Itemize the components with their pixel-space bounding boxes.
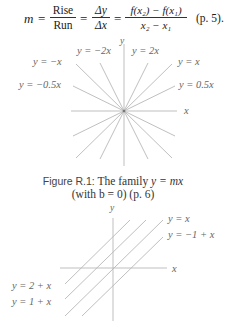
figure-number: Figure R.1: (43, 175, 95, 187)
x-axis-label: x (184, 105, 189, 116)
x-axis-label-2: x (172, 263, 177, 274)
label-y-x-2: y = x (168, 213, 190, 224)
label-y-neg-0.5x: y = −0.5x (19, 79, 61, 90)
line-y-neg1-plus-x (82, 237, 163, 316)
label-y-2x: y = 2x (132, 45, 159, 56)
label-y-neg-x: y = −x (33, 56, 62, 67)
y-axis-label-2: y (110, 203, 114, 214)
label-y-2-plus-x: y = 2 + x (12, 280, 51, 291)
origin-point (123, 110, 126, 113)
label-y-neg1-plus-x: y = −1 + x (168, 229, 214, 240)
y-axis-label: y (120, 36, 124, 47)
line-y-2-plus-x (65, 220, 130, 284)
label-y-neg-2x: y = −2x (77, 45, 111, 56)
figure-r1-caption-line2: (with b = 0) (p. 6) (13, 188, 213, 201)
label-y-0.5x: y = 0.5x (179, 79, 214, 90)
line-y-1-plus-x (65, 220, 146, 299)
label-y-x: y = x (178, 56, 200, 67)
caption-text: The family (95, 175, 151, 187)
label-y-1-plus-x: y = 1 + x (12, 296, 51, 307)
caption-math: y = mx (151, 175, 183, 187)
figure-r1-caption: Figure R.1: The family y = mx (13, 175, 213, 188)
